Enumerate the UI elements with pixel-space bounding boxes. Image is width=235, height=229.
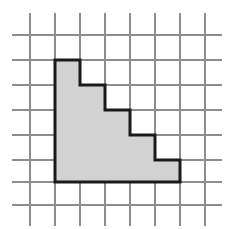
figure-container — [0, 0, 235, 229]
staircase-polygon — [55, 60, 180, 182]
grid-figure-svg — [0, 0, 235, 229]
